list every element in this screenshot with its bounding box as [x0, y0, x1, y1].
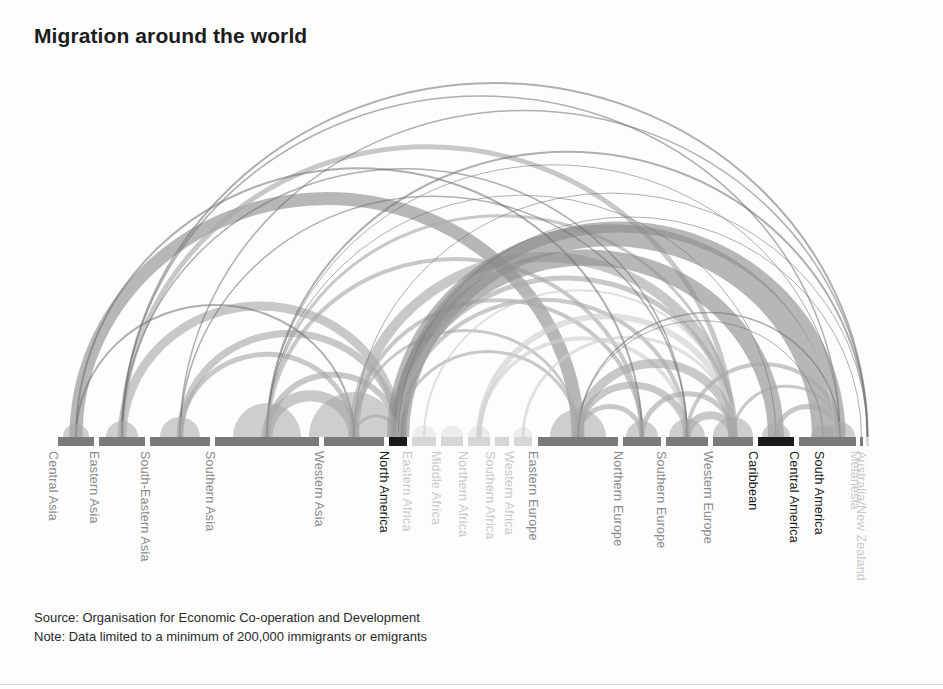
- arc-self-loop: [160, 417, 200, 437]
- axis-label-australia-nz[interactable]: Australia/New Zealand: [854, 451, 868, 581]
- node-bar-layer: [58, 437, 869, 446]
- axis-label-central-asia[interactable]: Central Asia: [46, 451, 60, 521]
- arc-self-loop: [63, 424, 89, 437]
- node-bar-western-asia[interactable]: [324, 437, 384, 446]
- chart-canvas: Migration around the world Central AsiaE…: [0, 0, 943, 689]
- footer-source: Source: Organisation for Economic Co-ope…: [34, 608, 427, 627]
- node-bar-middle-africa[interactable]: [441, 437, 463, 446]
- arc-self-loop: [233, 403, 301, 437]
- node-bar-northern-europe[interactable]: [623, 437, 661, 446]
- node-bar-central-asia[interactable]: [58, 437, 94, 446]
- node-bar-western-africa[interactable]: [514, 437, 532, 446]
- axis-label-western-asia[interactable]: Western Asia: [312, 451, 326, 527]
- axis-label-southern-europe[interactable]: Southern Europe: [654, 451, 668, 549]
- axis-label-central-america[interactable]: Central America: [787, 451, 801, 543]
- arc-layer: [76, 83, 868, 437]
- node-bar-southern-europe[interactable]: [666, 437, 708, 446]
- node-bar-eastern-asia[interactable]: [99, 437, 145, 446]
- arc-self-loop: [513, 427, 533, 437]
- axis-label-western-europe[interactable]: Western Europe: [701, 451, 715, 544]
- footer-note: Note: Data limited to a minimum of 200,0…: [34, 627, 427, 646]
- axis-label-eastern-africa[interactable]: Eastern Africa: [400, 451, 414, 532]
- arc-diagram-svg: [0, 0, 943, 689]
- node-bar-eastern-europe[interactable]: [538, 437, 618, 446]
- arc-self-loop: [626, 421, 658, 437]
- node-bar-melanesia[interactable]: [860, 437, 863, 446]
- axis-label-south-america[interactable]: South America: [812, 451, 826, 535]
- axis-label-western-africa[interactable]: Western Africa: [502, 451, 516, 535]
- node-bar-eastern-africa[interactable]: [412, 437, 436, 446]
- arc-self-loop: [412, 425, 436, 437]
- node-bar-caribbean[interactable]: [758, 437, 794, 446]
- arc-self-loop: [550, 409, 606, 437]
- axis-label-northern-africa[interactable]: Northern Africa: [456, 451, 470, 537]
- arc-self-loop: [762, 423, 790, 437]
- axis-label-middle-africa[interactable]: Middle Africa: [429, 451, 443, 525]
- node-bar-northern-africa[interactable]: [468, 437, 490, 446]
- node-bar-north-america[interactable]: [389, 437, 407, 446]
- arc-self-loop: [468, 426, 490, 437]
- axis-label-southern-africa[interactable]: Southern Africa: [483, 451, 497, 539]
- arc-self-loop: [106, 421, 138, 437]
- node-bar-australia-nz[interactable]: [866, 437, 869, 446]
- axis-label-north-america[interactable]: North America: [377, 451, 391, 533]
- bottom-divider: [0, 684, 943, 685]
- axis-label-eastern-europe[interactable]: Eastern Europe: [526, 451, 540, 541]
- axis-label-caribbean[interactable]: Caribbean: [746, 451, 760, 510]
- node-bar-southern-africa[interactable]: [495, 437, 509, 446]
- node-bar-south-eastern-asia[interactable]: [150, 437, 210, 446]
- arc-self-loop: [441, 426, 463, 437]
- axis-label-eastern-asia[interactable]: Eastern Asia: [87, 451, 101, 524]
- axis-label-northern-europe[interactable]: Northern Europe: [611, 451, 625, 546]
- node-bar-western-europe[interactable]: [713, 437, 753, 446]
- node-bar-southern-asia[interactable]: [215, 437, 319, 446]
- footer: Source: Organisation for Economic Co-ope…: [34, 608, 427, 646]
- node-bar-south-america[interactable]: [824, 437, 856, 446]
- axis-label-south-eastern-asia[interactable]: South-Eastern Asia: [138, 451, 152, 562]
- axis-label-southern-asia[interactable]: Southern Asia: [203, 451, 217, 531]
